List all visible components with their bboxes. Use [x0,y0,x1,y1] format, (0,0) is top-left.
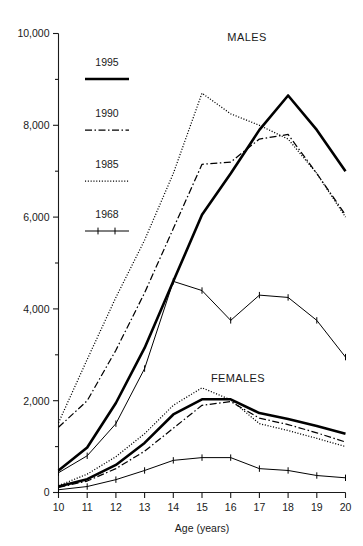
y-axis-tick-label: 0 [44,486,50,498]
x-axis-tick-label: 11 [82,501,93,513]
group-label-males: MALES [227,31,266,43]
x-axis-tick-label: 19 [311,501,323,513]
x-axis-tick-label: 10 [53,501,65,513]
legend-item-1985[interactable]: 1985 [85,158,129,181]
x-axis-tick-label: 15 [196,501,208,513]
y-axis-tick-label: 8,000 [23,119,49,131]
series-line-1990-males [59,134,346,427]
series-line-1985-males [59,93,346,423]
legend-label-1990: 1990 [95,107,119,119]
chart-container: 02,0004,0006,0008,00010,0001011121314151… [0,0,363,546]
y-axis-tick-label: 10,000 [17,27,49,39]
series-line-1968-males [59,281,346,472]
x-axis-tick-label: 16 [225,501,237,513]
legend-item-1968[interactable]: 1968 [85,208,129,234]
y-axis-tick-label: 2,000 [23,395,49,407]
labels-layer: Age (years)MALESFEMALES [175,31,267,534]
x-axis-title: Age (years) [175,522,229,534]
x-axis-tick-label: 12 [110,501,122,513]
line-chart-svg: 02,0004,0006,0008,00010,0001011121314151… [0,0,363,546]
series-line-1995-males [59,95,346,470]
x-axis-tick-label: 20 [340,501,352,513]
legend-label-1985: 1985 [95,158,119,170]
x-axis-tick-label: 17 [254,501,266,513]
data-series-layer [59,93,346,493]
x-axis-tick-label: 13 [139,501,151,513]
y-axis-tick-label: 6,000 [23,211,49,223]
series-line-1968-females [59,458,346,490]
legend-item-1990[interactable]: 1990 [85,107,129,130]
legend-layer: 1995199019851968 [85,56,129,234]
x-axis-tick-label: 14 [167,501,179,513]
series-line-1990-females [59,402,346,488]
legend-label-1995: 1995 [95,56,119,68]
axes-layer: 02,0004,0006,0008,00010,0001011121314151… [17,27,351,512]
y-axis-tick-label: 4,000 [23,303,49,315]
x-axis-tick-label: 18 [282,501,294,513]
legend-label-1968: 1968 [95,208,119,220]
group-label-females: FEMALES [211,372,265,384]
legend-item-1995[interactable]: 1995 [85,56,129,79]
